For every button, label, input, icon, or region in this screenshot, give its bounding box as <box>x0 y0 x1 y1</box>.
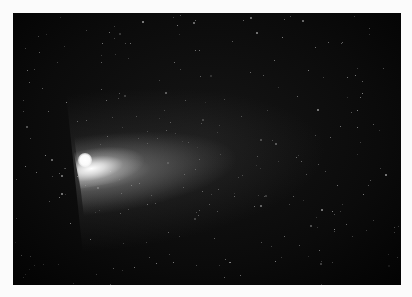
comet-photo: Comet with long diffuse tail against a d… <box>13 13 401 285</box>
comet-nucleus <box>78 153 92 167</box>
